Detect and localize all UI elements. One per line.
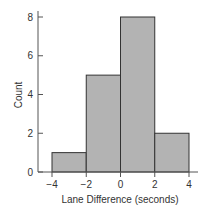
y-tick-label: 4 <box>27 89 33 100</box>
y-tick-label: 0 <box>27 167 33 178</box>
x-axis-label: Lane Difference (seconds) <box>61 194 178 205</box>
histogram-bar <box>155 133 189 172</box>
y-axis-label: Count <box>13 81 24 108</box>
x-tick-label: 0 <box>118 179 124 190</box>
histogram-chart: 02468 −4−2024 Count Lane Difference (sec… <box>0 0 210 211</box>
histogram-bar <box>52 153 86 172</box>
histogram-bar <box>86 75 120 172</box>
x-tick-label: −4 <box>46 179 58 190</box>
x-tick-label: 2 <box>152 179 158 190</box>
histogram-bar <box>121 17 155 172</box>
x-tick-label: 4 <box>186 179 192 190</box>
y-tick-label: 2 <box>27 128 33 139</box>
y-tick-label: 8 <box>27 12 33 23</box>
y-axis: 02468 <box>27 11 43 178</box>
y-tick-label: 6 <box>27 50 33 61</box>
x-tick-label: −2 <box>81 179 93 190</box>
plot-area: 02468 −4−2024 Count Lane Difference (sec… <box>0 0 210 211</box>
x-axis: −4−2024 <box>38 172 198 190</box>
bars-group <box>52 17 189 172</box>
